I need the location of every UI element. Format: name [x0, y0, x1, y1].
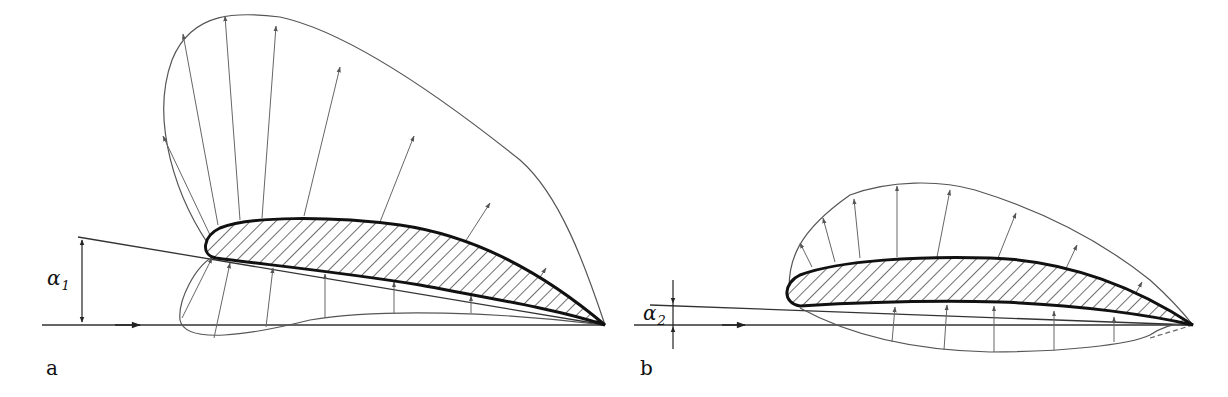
panel-b-label: b [640, 356, 653, 380]
airfoil-b [787, 258, 1193, 325]
panel-a-label: a [46, 356, 58, 380]
airfoil-a [205, 219, 605, 325]
alpha-1-symbol: α1 [47, 266, 70, 293]
pressure-vectors-b [892, 305, 1114, 352]
airfoil-pressure-diagram: α1 a [0, 0, 1228, 397]
panel-b: α2 b [634, 183, 1193, 380]
panel-a: α1 a [42, 15, 605, 380]
